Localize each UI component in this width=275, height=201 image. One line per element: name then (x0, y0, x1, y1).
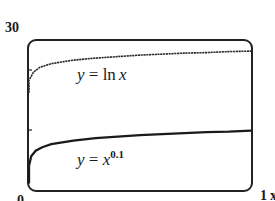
x-power-label: y = x0.1 (75, 148, 124, 169)
x-power-curve (29, 131, 251, 184)
ln-x-curve (29, 51, 251, 93)
x-max-label: 1x (260, 188, 275, 201)
y-min-label: 0 (17, 193, 24, 201)
chart: 30 0 1x y = lnx y = x0.1 (0, 0, 275, 201)
y-max-label: 30 (5, 20, 19, 35)
ln-x-label: y = lnx (75, 65, 127, 84)
